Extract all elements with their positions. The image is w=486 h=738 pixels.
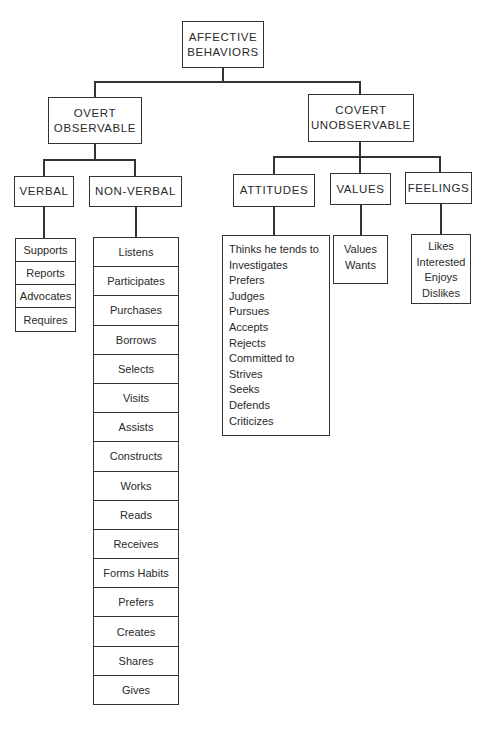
list-item: Investigates [229,258,329,274]
list-item: Dislikes [412,286,470,302]
list-item: Borrows [94,326,178,355]
node-values: VALUES [330,173,391,205]
list-item: Shares [94,647,178,676]
list-item: Purchases [94,296,178,325]
node-verbal: VERBAL [14,176,74,207]
list-item: Criticizes [229,414,329,430]
list-item: Prefers [94,588,178,617]
connector-level1-horizontal [94,81,360,83]
list-item: Receives [94,530,178,559]
connector-attitudes-list [273,206,275,235]
attitudes-items-list: Thinks he tends to Investigates Prefers … [222,235,330,436]
node-covert-unobservable: COVERT UNOBSERVABLE [308,94,414,142]
list-item: Likes [412,239,470,255]
list-item: Forms Habits [94,559,178,588]
overt-label-line1: OVERT [54,106,136,121]
list-item: Rejects [229,336,329,352]
list-item: Accepts [229,320,329,336]
list-item: Reports [16,262,75,285]
connector-overt-horizontal [43,159,136,161]
connector-nonverbal-list [135,206,137,237]
values-label: VALUES [336,182,384,197]
overt-label-line2: OBSERVABLE [54,121,136,136]
list-item: Thinks he tends to [229,242,329,258]
list-item: Constructs [94,442,178,471]
root-label-line2: BEHAVIORS [187,45,259,60]
list-item: Assists [94,413,178,442]
attitudes-label: ATTITUDES [240,183,308,198]
non-verbal-items-list: Listens Participates Purchases Borrows S… [93,237,179,705]
list-item: Committed to [229,351,329,367]
connector-to-feelings [439,156,441,172]
connector-to-nonverbal [134,159,136,176]
list-item: Values [334,242,387,258]
node-overt-observable: OVERT OBSERVABLE [48,97,142,144]
feelings-items-list: Likes Interested Enjoys Dislikes [411,234,471,304]
list-item: Advocates [16,285,75,308]
list-item: Pursues [229,304,329,320]
connector-to-values [359,156,361,173]
connector-covert-horizontal [273,156,440,158]
connector-to-overt [94,81,96,97]
list-item: Visits [94,384,178,413]
list-item: Participates [94,267,178,296]
list-item: Listens [94,238,178,267]
list-item: Prefers [229,273,329,289]
covert-label-line1: COVERT [311,103,411,118]
list-item: Enjoys [412,270,470,286]
list-item: Strives [229,367,329,383]
values-items-list: Values Wants [333,235,388,284]
list-item: Wants [334,258,387,274]
list-item: Requires [16,308,75,331]
list-item: Seeks [229,382,329,398]
connector-verbal-list [43,206,45,238]
list-item: Reads [94,501,178,530]
feelings-label: FEELINGS [408,181,470,196]
node-feelings: FEELINGS [405,172,472,204]
connector-to-attitudes [273,156,275,174]
connector-to-covert [359,81,361,95]
list-item: Selects [94,355,178,384]
node-attitudes: ATTITUDES [233,174,315,207]
list-item: Works [94,472,178,501]
list-item: Defends [229,398,329,414]
node-non-verbal: NON-VERBAL [89,176,182,207]
list-item: Interested [412,255,470,271]
connector-to-verbal [43,159,45,176]
verbal-label: VERBAL [20,184,69,199]
root-node-affective-behaviors: AFFECTIVE BEHAVIORS [182,21,264,68]
verbal-items-list: Supports Reports Advocates Requires [15,238,76,332]
connector-covert-down [359,141,361,157]
connector-values-list [360,204,362,235]
list-item: Creates [94,617,178,646]
covert-label-line2: UNOBSERVABLE [311,118,411,133]
connector-feelings-list [440,203,442,234]
root-label-line1: AFFECTIVE [187,30,259,45]
list-item: Judges [229,289,329,305]
list-item: Gives [94,676,178,705]
connector-overt-down [94,143,96,159]
list-item: Supports [16,239,75,262]
non-verbal-label: NON-VERBAL [95,184,176,199]
connector-root-down [222,67,224,82]
